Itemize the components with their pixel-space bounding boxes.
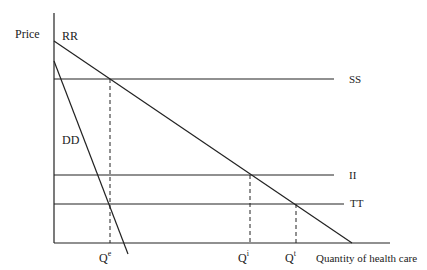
dd-curve bbox=[54, 61, 128, 254]
qt-label: Qt bbox=[285, 250, 296, 264]
rr-label: RR bbox=[62, 30, 78, 42]
ii-label: II bbox=[349, 170, 356, 181]
qi-label: Qi bbox=[238, 250, 249, 264]
x-axis-label: Quantity of health care bbox=[316, 253, 417, 264]
qe-label: Qe bbox=[99, 250, 111, 264]
rr-curve bbox=[54, 41, 352, 243]
ss-label: SS bbox=[349, 74, 361, 85]
y-axis-label: Price bbox=[15, 28, 40, 40]
dd-label: DD bbox=[62, 134, 79, 146]
tt-label: TT bbox=[350, 198, 363, 209]
